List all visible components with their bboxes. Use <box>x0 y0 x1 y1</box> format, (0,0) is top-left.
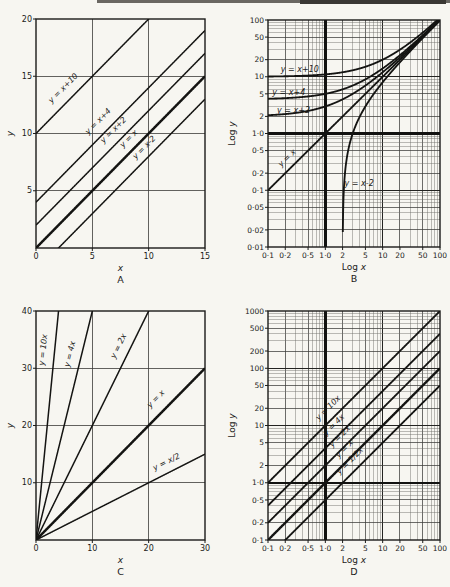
scanned-book-page: y = x+10y = x+4y = x+2y = xy = x-2051015… <box>0 0 450 587</box>
y-tick-label: 0·1 <box>252 186 264 195</box>
series-label: y = 4x <box>62 340 77 369</box>
y-tick-label: 500 <box>250 324 265 333</box>
x-axis-label: x <box>117 263 124 273</box>
x-tick-label: 0·2 <box>279 544 291 553</box>
y-tick-label: 50 <box>254 381 264 390</box>
y-axis-label: y <box>5 422 15 429</box>
axis-ticks <box>33 19 205 251</box>
series-line <box>268 334 440 506</box>
y-tick-label: 10 <box>22 478 32 487</box>
x-axis-label: Log x <box>342 555 367 565</box>
x-tick-label: 5 <box>363 544 368 553</box>
y-tick-label: 0·1 <box>252 536 264 545</box>
series-line <box>268 351 440 523</box>
y-tick-label: 5 <box>259 90 264 99</box>
y-axis-label: y <box>5 130 15 137</box>
panel-letter: A <box>117 274 124 285</box>
series-label: y = x+2 <box>276 106 310 115</box>
y-tick-label: 2 <box>259 112 264 121</box>
x-tick-label: 20 <box>395 251 405 260</box>
grid <box>268 311 440 540</box>
y-tick-label: 20 <box>254 55 264 64</box>
x-tick-label: 2 <box>340 251 345 260</box>
y-tick-label: 1·0 <box>252 478 264 487</box>
x-tick-label: 0·5 <box>302 544 314 553</box>
y-tick-label: 0·01 <box>247 243 264 252</box>
series-label: y = x/2 <box>151 451 182 473</box>
grid <box>36 19 205 248</box>
x-axis-label: x <box>117 555 124 565</box>
series-line <box>36 454 205 540</box>
series-label: y = x <box>145 388 167 410</box>
x-tick-label: 0 <box>33 544 38 553</box>
x-tick-label: 5 <box>363 251 368 260</box>
x-tick-label: 0·2 <box>279 251 291 260</box>
x-tick-label: 100 <box>433 544 448 553</box>
series-group <box>36 0 205 271</box>
x-tick-label: 20 <box>395 544 405 553</box>
x-tick-label: 100 <box>433 251 448 260</box>
grid <box>268 20 440 247</box>
x-tick-label: 0·1 <box>262 544 274 553</box>
series-group <box>36 295 205 540</box>
series-line <box>36 295 205 540</box>
x-tick-label: 0 <box>33 252 38 261</box>
y-tick-label: 15 <box>22 72 32 81</box>
series-line <box>343 21 440 233</box>
panel-letter: B <box>351 273 358 284</box>
x-tick-label: 0·5 <box>302 251 314 260</box>
series-label: y = x+4 <box>271 88 305 97</box>
y-axis-label: Log y <box>227 121 237 146</box>
x-axis-label: Log x <box>342 262 367 272</box>
x-tick-label: 10 <box>87 544 97 553</box>
y-tick-label: 40 <box>22 307 32 316</box>
y-tick-label: 10 <box>254 72 264 81</box>
y-tick-label: 2 <box>259 461 264 470</box>
y-tick-label: 100 <box>250 16 265 25</box>
x-tick-label: 5 <box>90 252 95 261</box>
x-tick-label: 15 <box>200 252 210 261</box>
y-tick-label: 30 <box>22 364 32 373</box>
x-tick-label: 2 <box>340 544 345 553</box>
series-line <box>36 295 205 540</box>
x-tick-label: 10 <box>378 251 388 260</box>
panel-letter: D <box>350 566 357 577</box>
x-tick-label: 0·1 <box>262 251 274 260</box>
y-axis-label: Log y <box>227 413 237 438</box>
series-line <box>36 76 205 248</box>
series-label: y = x+10 <box>280 65 319 74</box>
x-tick-label: 1·0 <box>319 544 331 553</box>
y-tick-label: 0·02 <box>247 226 264 235</box>
chart-panel-B: y = x+10y = x+4y = x+2y = xy = x-20·10·2… <box>225 0 450 295</box>
y-tick-label: 200 <box>250 347 265 356</box>
x-tick-label: 30 <box>200 544 210 553</box>
y-tick-label: 50 <box>254 33 264 42</box>
y-tick-label: 10 <box>254 421 264 430</box>
series-group <box>268 311 440 557</box>
x-tick-label: 50 <box>418 544 428 553</box>
y-tick-label: 1000 <box>245 307 264 316</box>
x-tick-label: 1·0 <box>319 251 331 260</box>
series-label: y = 10x <box>37 334 49 367</box>
x-tick-label: 20 <box>144 544 154 553</box>
y-tick-label: 10 <box>22 129 32 138</box>
y-tick-label: 0·5 <box>252 496 264 505</box>
series-line <box>36 0 205 134</box>
chart-panel-A: y = x+10y = x+4y = x+2y = xy = x-2051015… <box>0 0 225 295</box>
y-tick-label: 0·2 <box>252 169 264 178</box>
x-tick-label: 10 <box>378 544 388 553</box>
series-line <box>268 385 440 557</box>
y-tick-label: 0·05 <box>247 203 264 212</box>
chart-panel-D: y = 10xy = 4xy = 2xy = xy = 1/2x0·10·20·… <box>225 295 450 587</box>
y-tick-label: 20 <box>22 421 32 430</box>
y-tick-label: 20 <box>254 404 264 413</box>
series-line <box>268 19 440 99</box>
series-line <box>36 368 205 540</box>
x-tick-label: 10 <box>144 252 154 261</box>
y-tick-label: 5 <box>27 186 32 195</box>
panel-letter: C <box>117 566 124 577</box>
y-tick-label: 20 <box>22 15 32 24</box>
y-tick-label: 1·0 <box>252 129 264 138</box>
y-tick-label: 0·5 <box>252 146 264 155</box>
y-tick-label: 100 <box>250 364 265 373</box>
